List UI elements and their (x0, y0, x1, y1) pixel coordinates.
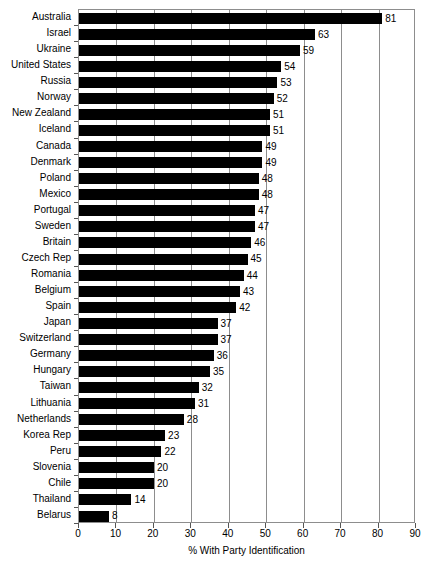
bar-value-label: 44 (247, 268, 258, 284)
bar-rows: 8163595453525151494948484747464544434237… (79, 10, 414, 522)
bar-row: 45 (79, 251, 414, 268)
plot-area: 8163595453525151494948484747464544434237… (78, 9, 415, 523)
bar-row: 47 (79, 219, 414, 236)
category-label: Iceland (0, 121, 71, 138)
bar-row: 20 (79, 460, 414, 477)
bar-value-label: 37 (221, 316, 232, 332)
bar-row: 20 (79, 476, 414, 493)
bar (79, 446, 161, 457)
bar-value-label: 51 (273, 107, 284, 123)
x-axis-tick-labels: 0102030405060708090 (78, 528, 415, 544)
bar-value-label: 45 (251, 251, 262, 267)
bar-value-label: 14 (134, 492, 145, 508)
bar-value-label: 46 (254, 235, 265, 251)
bar-row: 28 (79, 412, 414, 429)
category-label: Slovenia (0, 459, 71, 476)
x-axis-tick-label: 60 (297, 528, 308, 539)
bar-value-label: 49 (265, 155, 276, 171)
x-axis-tick-label: 40 (222, 528, 233, 539)
bar-row: 46 (79, 235, 414, 252)
bar (79, 77, 277, 88)
bar (79, 494, 131, 505)
bar (79, 350, 214, 361)
category-label: Lithuania (0, 395, 71, 412)
bar-row: 47 (79, 203, 414, 220)
bar (79, 93, 274, 104)
category-label: Taiwan (0, 378, 71, 395)
category-label: Netherlands (0, 411, 71, 428)
bar (79, 511, 109, 522)
bar-value-label: 52 (277, 91, 288, 107)
bar-value-label: 48 (262, 187, 273, 203)
bar-row: 52 (79, 90, 414, 107)
bar-row: 59 (79, 42, 414, 59)
bar (79, 173, 259, 184)
x-axis-tick-label: 70 (335, 528, 346, 539)
bar-value-label: 81 (385, 11, 396, 27)
category-label: Korea Rep (0, 427, 71, 444)
bar (79, 302, 236, 313)
category-label: Canada (0, 138, 71, 155)
category-label: Australia (0, 9, 71, 26)
category-label: Germany (0, 346, 71, 363)
category-label: Britain (0, 234, 71, 251)
bar (79, 334, 218, 345)
category-axis: AustraliaIsraelUkraineUnited StatesRussi… (0, 9, 75, 523)
bar (79, 157, 262, 168)
category-label: Sweden (0, 218, 71, 235)
category-label: Israel (0, 25, 71, 42)
category-label: Mexico (0, 186, 71, 203)
bar-row: 81 (79, 10, 414, 27)
category-label: Japan (0, 314, 71, 331)
category-label: United States (0, 57, 71, 74)
category-label: Romania (0, 266, 71, 283)
category-label: Russia (0, 73, 71, 90)
x-axis-tick-label: 20 (147, 528, 158, 539)
bar-row: 32 (79, 379, 414, 396)
bar-row: 48 (79, 187, 414, 204)
bar-value-label: 48 (262, 171, 273, 187)
bar-value-label: 54 (284, 59, 295, 75)
bar-value-label: 37 (221, 332, 232, 348)
category-label: New Zealand (0, 105, 71, 122)
bar-row: 51 (79, 122, 414, 139)
bar-value-label: 51 (273, 123, 284, 139)
bar-row: 37 (79, 315, 414, 332)
bar-row: 51 (79, 106, 414, 123)
bar-row: 49 (79, 139, 414, 156)
bar (79, 270, 244, 281)
bar (79, 430, 165, 441)
bar-value-label: 28 (187, 412, 198, 428)
bar (79, 125, 270, 136)
bar (79, 398, 195, 409)
bar-chart: AustraliaIsraelUkraineUnited StatesRussi… (0, 0, 432, 565)
x-axis-tick-label: 0 (75, 528, 81, 539)
bar (79, 414, 184, 425)
category-label: Belarus (0, 507, 71, 524)
category-label: Norway (0, 89, 71, 106)
category-label: Denmark (0, 154, 71, 171)
bar-value-label: 22 (164, 444, 175, 460)
bar-value-label: 59 (303, 43, 314, 59)
bar-value-label: 32 (202, 380, 213, 396)
bar-row: 48 (79, 171, 414, 188)
x-axis-tick-label: 30 (185, 528, 196, 539)
bar (79, 366, 210, 377)
bar-row: 63 (79, 26, 414, 43)
bar-value-label: 20 (157, 460, 168, 476)
bar (79, 286, 240, 297)
x-axis-tick-label: 10 (110, 528, 121, 539)
category-label: Belgium (0, 282, 71, 299)
category-label: Poland (0, 170, 71, 187)
bar-value-label: 31 (198, 396, 209, 412)
bar (79, 254, 248, 265)
bar-value-label: 35 (213, 364, 224, 380)
bar-value-label: 36 (217, 348, 228, 364)
x-axis-title: % With Party Identification (78, 545, 415, 556)
bar-row: 23 (79, 428, 414, 445)
bar-row: 43 (79, 283, 414, 300)
bar-value-label: 63 (318, 27, 329, 43)
bar (79, 13, 382, 24)
bar-value-label: 47 (258, 219, 269, 235)
bar-row: 49 (79, 155, 414, 172)
